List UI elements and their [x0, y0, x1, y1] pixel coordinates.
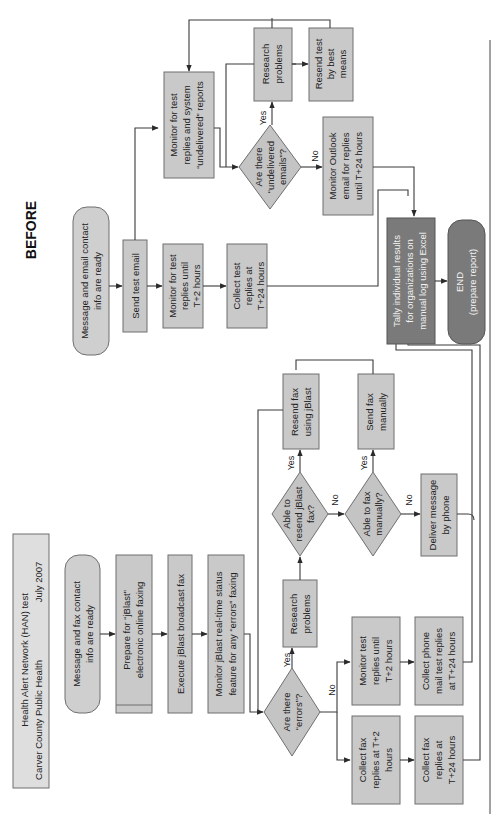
- svg-text:Send test email: Send test email: [130, 253, 141, 318]
- flowchart: Health Alert Network (HAN) test Carver C…: [0, 0, 499, 814]
- title-line2: Carver County Public Health: [33, 660, 44, 780]
- yes-label: Yes: [282, 652, 292, 667]
- title-line1: Health Alert Network (HAN) test: [19, 593, 30, 727]
- svg-text:Monitor Outlook: Monitor Outlook: [327, 132, 338, 199]
- email-collect-24h-box: Collect test replies at T+24 hours: [227, 244, 267, 328]
- svg-text:Resend test: Resend test: [313, 38, 324, 89]
- svg-text:resend jBlast: resend jBlast: [293, 486, 304, 541]
- svg-text:problems: problems: [273, 44, 284, 83]
- fax-execute-box: Execute jBlast broadcast fax: [168, 555, 192, 713]
- end-terminal: END (prepare report): [448, 220, 485, 344]
- svg-text:info are ready: info are ready: [84, 605, 95, 663]
- svg-text:T+24 hours: T+24 hours: [446, 736, 457, 785]
- no-label: No: [404, 494, 414, 506]
- title-date: July 2007: [33, 562, 44, 603]
- svg-text:replies until: replies until: [370, 637, 381, 685]
- svg-text:“undelivered” reports: “undelivered” reports: [194, 81, 205, 169]
- no-label: No: [310, 150, 320, 162]
- svg-text:replies and system: replies and system: [181, 85, 192, 164]
- fax-monitor-replies-box: Monitor test replies until T+2 hours: [352, 617, 400, 705]
- deliver-phone-box: Deliver message by phone: [421, 474, 457, 556]
- yes-label: Yes: [359, 455, 369, 470]
- svg-text:email for replies: email for replies: [340, 132, 351, 199]
- fax-resend-decision: Able to resend jBlast fax?: [272, 472, 328, 556]
- svg-text:Able to fax: Able to fax: [361, 491, 372, 536]
- email-start-terminal: Message and email contact info are ready: [73, 207, 109, 355]
- svg-text:Send fax: Send fax: [364, 393, 375, 431]
- svg-text:emails”?: emails”?: [277, 149, 288, 185]
- email-research-box: Research problems: [254, 28, 292, 101]
- email-undelivered-decision: Are there “undelivered emails”?: [239, 125, 301, 209]
- svg-text:by best: by best: [325, 48, 336, 79]
- svg-text:Tally individual results: Tally individual results: [391, 235, 402, 327]
- svg-text:Monitor for test: Monitor for test: [168, 93, 179, 157]
- svg-text:using jBlast: using jBlast: [302, 387, 313, 436]
- svg-text:(prepare report): (prepare report): [467, 249, 478, 316]
- fax-resend-box: Resend fax using jBlast: [283, 374, 319, 449]
- svg-text:manual log using Excel: manual log using Excel: [417, 232, 428, 330]
- svg-text:T+24 hours: T+24 hours: [255, 262, 266, 311]
- collect-fax-24h-box: Collect fax replies at T+24 hours: [415, 716, 463, 804]
- svg-text:replies until: replies until: [179, 262, 190, 310]
- svg-text:manually: manually: [377, 393, 388, 431]
- fax-prepare-box: Prepare for “jBlast” electronic online f…: [116, 555, 152, 713]
- svg-text:at T+24 hours: at T+24 hours: [446, 631, 457, 690]
- svg-text:Execute jBlast broadcast fax: Execute jBlast broadcast fax: [175, 574, 186, 694]
- svg-text:Collect fax: Collect fax: [420, 738, 431, 783]
- email-monitor-outlook-box: Monitor Outlook email for replies until …: [323, 117, 373, 215]
- svg-text:Prepare for “jBlast”: Prepare for “jBlast”: [121, 590, 132, 670]
- svg-text:Able to: Able to: [281, 499, 292, 529]
- title-box: Health Alert Network (HAN) test Carver C…: [13, 534, 49, 788]
- fax-monitor-box: Monitor jBlast real-time status feature …: [208, 555, 244, 713]
- svg-text:Monitor jBlast real-time statu: Monitor jBlast real-time status: [213, 571, 224, 696]
- svg-text:info are ready: info are ready: [92, 252, 103, 310]
- svg-text:T+2 hours: T+2 hours: [383, 639, 394, 682]
- svg-text:until T+24 hours: until T+24 hours: [353, 132, 364, 200]
- svg-text:Monitor for test: Monitor for test: [167, 254, 178, 318]
- svg-text:Carver County Public Health: Carver County Public Health: [33, 660, 44, 780]
- email-monitor-2h-box: Monitor for test replies until T+2 hours: [163, 244, 203, 328]
- svg-text:Research: Research: [288, 594, 299, 635]
- svg-text:Message and fax contact: Message and fax contact: [71, 581, 82, 687]
- svg-text:Collect phone: Collect phone: [420, 632, 431, 690]
- email-send-box: Send test email: [123, 240, 147, 332]
- svg-text:Deliver message: Deliver message: [427, 480, 438, 551]
- fax-errors-decision: Are there “errors”?: [264, 668, 320, 756]
- email-monitor-undelivered-box: Monitor for test replies and system “und…: [164, 72, 214, 178]
- svg-text:mail test replies: mail test replies: [433, 628, 444, 694]
- section-label: BEFORE: [23, 201, 39, 259]
- svg-text:manually?: manually?: [373, 492, 384, 535]
- svg-text:Are there: Are there: [281, 692, 292, 731]
- svg-text:replies at: replies at: [433, 740, 444, 779]
- svg-text:hours: hours: [383, 748, 394, 772]
- no-label: No: [327, 684, 337, 696]
- svg-text:T+2 hours: T+2 hours: [191, 264, 202, 307]
- svg-text:Collect test: Collect test: [231, 262, 242, 309]
- svg-text:fax?: fax?: [305, 505, 316, 523]
- yes-label: Yes: [286, 455, 296, 470]
- svg-text:Health Alert Network (HAN) tes: Health Alert Network (HAN) test: [19, 593, 30, 727]
- svg-text:replies at T+2: replies at T+2: [370, 731, 381, 789]
- svg-text:“undelivered: “undelivered: [265, 141, 276, 193]
- email-resend-box: Resend test by best means: [309, 28, 353, 101]
- collect-fax-2h-box: Collect fax replies at T+2 hours: [352, 716, 400, 804]
- fax-research-box: Research problems: [283, 580, 317, 647]
- svg-text:replies at: replies at: [243, 266, 254, 305]
- collect-phone-replies-box: Collect phone mail test replies at T+24 …: [415, 617, 463, 705]
- svg-text:Resend fax: Resend fax: [289, 388, 300, 436]
- svg-text:problems: problems: [301, 594, 312, 633]
- svg-text:Collect fax: Collect fax: [357, 738, 368, 783]
- fax-send-manual-box: Send fax manually: [358, 374, 394, 449]
- no-label: No: [330, 494, 340, 506]
- svg-text:Message and email contact: Message and email contact: [79, 223, 90, 339]
- svg-text:Monitor test: Monitor test: [357, 636, 368, 686]
- svg-text:July 2007: July 2007: [33, 562, 44, 603]
- svg-text:“errors”?: “errors”?: [293, 694, 304, 730]
- svg-text:feature for any “errors” faxin: feature for any “errors” faxing: [227, 572, 238, 695]
- svg-text:END: END: [454, 272, 465, 292]
- svg-text:by phone: by phone: [440, 495, 451, 534]
- tally-box: Tally individual results for organizatio…: [387, 218, 435, 344]
- svg-text:Are there: Are there: [253, 147, 264, 186]
- svg-text:Research: Research: [260, 44, 271, 85]
- svg-text:for organizations on: for organizations on: [404, 239, 415, 322]
